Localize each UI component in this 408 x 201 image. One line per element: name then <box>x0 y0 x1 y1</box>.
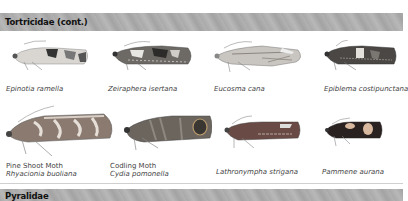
moth-image-lathronympha-strigana <box>222 114 302 148</box>
divider <box>0 183 403 184</box>
moth-image-eucosma-cana <box>212 40 302 72</box>
species-caption: Pammene aurana <box>322 168 384 176</box>
moth-image-epinotia-ramella <box>6 40 88 70</box>
common-name: Codling Moth <box>110 162 169 170</box>
species-caption: Eucosma cana <box>214 85 265 93</box>
scientific-name: Eucosma cana <box>214 85 265 93</box>
moth-image-cydia-pomonella <box>120 112 212 154</box>
scientific-name: Zeiraphera isertana <box>108 85 177 93</box>
scientific-name: Epinotia ramella <box>6 85 63 93</box>
section-header-pyralidae: Pyralidae <box>0 189 403 201</box>
scientific-name: Pammene aurana <box>322 168 384 176</box>
moth-image-rhyacionia-buoliana <box>4 104 114 156</box>
scientific-name: Epiblema costipunctana <box>324 85 408 93</box>
species-caption: Pine Shoot Moth Rhyacionia buoliana <box>6 162 77 178</box>
species-caption: Epiblema costipunctana <box>324 85 408 93</box>
section-header-tortricidae: Tortricidae (cont.) <box>0 13 403 31</box>
species-caption: Zeiraphera isertana <box>108 85 177 93</box>
species-caption: Epinotia ramella <box>6 85 63 93</box>
scientific-name: Cydia pomonella <box>110 170 169 178</box>
moth-image-epiblema-costipunctana <box>322 40 398 70</box>
scientific-name: Rhyacionia buoliana <box>6 170 77 178</box>
moth-image-zeiraphera-isertana <box>108 40 193 70</box>
moth-image-pammene-aurana <box>322 116 384 146</box>
species-caption: Lathronympha strigana <box>216 168 298 176</box>
common-name: Pine Shoot Moth <box>6 162 77 170</box>
scientific-name: Lathronympha strigana <box>216 168 298 176</box>
section-title: Pyralidae <box>0 189 48 201</box>
section-title: Tortricidae (cont.) <box>0 17 88 27</box>
species-caption: Codling Moth Cydia pomonella <box>110 162 169 178</box>
